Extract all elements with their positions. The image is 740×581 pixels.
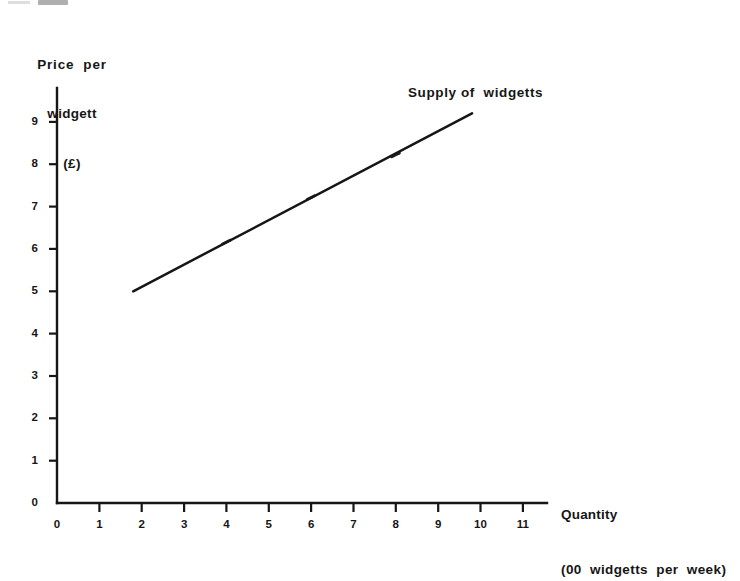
y-tick-label-8: 8 <box>18 157 38 169</box>
x-tick-label-5: 5 <box>258 518 280 530</box>
y-tick-label-6: 6 <box>18 242 38 254</box>
y-tick-label-9: 9 <box>18 115 38 127</box>
x-tick-label-6: 6 <box>300 518 322 530</box>
x-tick-label-8: 8 <box>385 518 407 530</box>
x-axis-title-line-1: Quantity <box>561 506 726 524</box>
y-tick-label-5: 5 <box>18 284 38 296</box>
x-tick-label-9: 9 <box>427 518 449 530</box>
x-axis-ticks <box>99 503 523 512</box>
y-tick-label-0: 0 <box>18 496 38 508</box>
y-axis-title-line-1: Price per <box>18 57 126 73</box>
x-tick-label-10: 10 <box>470 518 492 530</box>
x-tick-label-11: 11 <box>512 518 534 530</box>
x-axis-title-line-2: (00 widgetts per week) <box>561 561 726 579</box>
x-tick-label-4: 4 <box>215 518 237 530</box>
supply-curve-line <box>133 113 472 291</box>
y-tick-label-4: 4 <box>18 327 38 339</box>
x-tick-label-1: 1 <box>88 518 110 530</box>
supply-curve-annotation: Supply of widgetts <box>408 85 543 101</box>
y-tick-label-3: 3 <box>18 369 38 381</box>
y-tick-label-1: 1 <box>18 454 38 466</box>
x-axis-title: Quantity (00 widgetts per week) <box>561 470 726 581</box>
x-tick-label-3: 3 <box>173 518 195 530</box>
x-tick-label-2: 2 <box>131 518 153 530</box>
x-tick-label-7: 7 <box>343 518 365 530</box>
y-tick-label-7: 7 <box>18 200 38 212</box>
y-tick-label-2: 2 <box>18 411 38 423</box>
x-tick-label-0: 0 <box>46 518 68 530</box>
